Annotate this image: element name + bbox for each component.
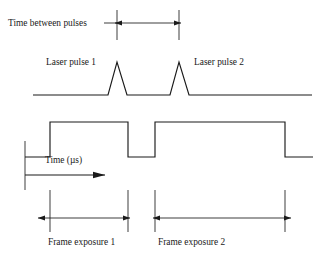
time-axis-label: Time (µs) <box>45 155 82 166</box>
timing-diagram: Time between pulses Laser pulse 1 Laser … <box>0 0 325 258</box>
frame-exposure-2-label: Frame exposure 2 <box>158 237 225 247</box>
timing-diagram-canvas: Time between pulses Laser pulse 1 Laser … <box>0 0 325 258</box>
time-between-pulses-label: Time between pulses <box>8 18 87 28</box>
laser-pulse-2-label: Laser pulse 2 <box>194 57 244 67</box>
frame-exposure-1-label: Frame exposure 1 <box>48 237 115 247</box>
frame-exposure-square-wave <box>25 122 313 157</box>
laser-pulse-1-label: Laser pulse 1 <box>46 57 96 67</box>
